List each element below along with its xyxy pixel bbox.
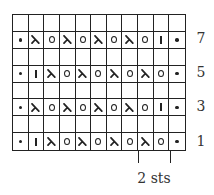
chart-cell bbox=[107, 32, 123, 49]
purl-dot-icon bbox=[19, 72, 23, 76]
yarn-over-icon bbox=[95, 138, 101, 145]
chart-cell bbox=[13, 133, 29, 150]
yarn-over-icon bbox=[95, 70, 101, 77]
ssk-decrease-icon bbox=[94, 35, 103, 44]
yarn-over-icon bbox=[127, 70, 133, 77]
chart-cell bbox=[169, 32, 185, 49]
chart-cell bbox=[60, 116, 76, 133]
yarn-over-icon bbox=[111, 36, 117, 43]
ssk-decrease-icon bbox=[110, 69, 119, 78]
chart-cell bbox=[107, 133, 123, 150]
row-number-1: 1 bbox=[193, 134, 209, 148]
row-number-5: 5 bbox=[193, 65, 209, 79]
row-number-3: 3 bbox=[193, 99, 209, 113]
chart-cell bbox=[154, 116, 170, 133]
ssk-decrease-icon bbox=[47, 137, 56, 146]
purl-dot-icon bbox=[175, 140, 179, 144]
chart-cell bbox=[138, 15, 154, 32]
chart-cell bbox=[76, 99, 92, 116]
chart-cell bbox=[122, 49, 138, 66]
chart-cell bbox=[107, 99, 123, 116]
chart-cell bbox=[13, 32, 29, 49]
chart-cell bbox=[138, 116, 154, 133]
ssk-decrease-icon bbox=[31, 35, 40, 44]
chart-cell bbox=[29, 66, 45, 83]
knit-stitch-icon bbox=[35, 138, 37, 146]
chart-cell bbox=[91, 15, 107, 32]
yarn-over-icon bbox=[49, 104, 55, 111]
yarn-over-icon bbox=[80, 104, 86, 111]
yarn-over-icon bbox=[142, 104, 148, 111]
purl-dot-icon bbox=[175, 38, 179, 42]
chart-cell bbox=[44, 99, 60, 116]
chart-cell bbox=[76, 116, 92, 133]
chart-cell bbox=[169, 116, 185, 133]
chart-cell bbox=[76, 66, 92, 83]
chart-cell bbox=[13, 66, 29, 83]
chart-cell bbox=[154, 49, 170, 66]
row-number-7: 7 bbox=[193, 31, 209, 45]
ssk-decrease-icon bbox=[125, 103, 134, 112]
ssk-decrease-icon bbox=[63, 35, 72, 44]
chart-cell bbox=[44, 49, 60, 66]
chart-cell bbox=[60, 66, 76, 83]
chart-cell bbox=[44, 32, 60, 49]
repeat-label: 2 sts bbox=[124, 171, 184, 185]
chart-cell bbox=[76, 15, 92, 32]
chart-cell bbox=[138, 66, 154, 83]
chart-cell bbox=[169, 133, 185, 150]
yarn-over-icon bbox=[80, 36, 86, 43]
chart-cell bbox=[122, 15, 138, 32]
chart-cell bbox=[122, 32, 138, 49]
ssk-decrease-icon bbox=[94, 103, 103, 112]
chart-cell bbox=[44, 133, 60, 150]
chart-cell bbox=[29, 49, 45, 66]
chart-cell bbox=[44, 66, 60, 83]
chart-cell bbox=[138, 133, 154, 150]
chart-cell bbox=[91, 32, 107, 49]
chart-cell bbox=[154, 66, 170, 83]
chart-cell bbox=[107, 15, 123, 32]
chart-cell bbox=[138, 83, 154, 100]
chart-cell bbox=[44, 116, 60, 133]
chart-cell bbox=[13, 83, 29, 100]
chart-cell bbox=[138, 99, 154, 116]
chart-cell bbox=[60, 15, 76, 32]
ssk-decrease-icon bbox=[78, 137, 87, 146]
chart-cell bbox=[29, 83, 45, 100]
chart-cell bbox=[122, 116, 138, 133]
yarn-over-icon bbox=[142, 36, 148, 43]
chart-cell bbox=[107, 66, 123, 83]
chart-cell bbox=[122, 66, 138, 83]
chart-cell bbox=[91, 83, 107, 100]
chart-cell bbox=[154, 83, 170, 100]
repeat-marker-right bbox=[170, 151, 171, 163]
ssk-decrease-icon bbox=[141, 137, 150, 146]
chart-cell bbox=[122, 99, 138, 116]
chart-cell bbox=[169, 66, 185, 83]
chart-cell bbox=[91, 66, 107, 83]
chart-cell bbox=[13, 49, 29, 66]
knit-stitch-icon bbox=[160, 103, 162, 111]
yarn-over-icon bbox=[64, 70, 70, 77]
chart-cell bbox=[91, 99, 107, 116]
chart-cell bbox=[169, 99, 185, 116]
chart-cell bbox=[138, 49, 154, 66]
chart-cell bbox=[154, 15, 170, 32]
chart-cell bbox=[29, 99, 45, 116]
chart-cell bbox=[107, 83, 123, 100]
purl-dot-icon bbox=[175, 106, 179, 110]
chart-cell bbox=[60, 32, 76, 49]
yarn-over-icon bbox=[158, 70, 164, 77]
chart-cell bbox=[107, 116, 123, 133]
yarn-over-icon bbox=[49, 36, 55, 43]
chart-cell bbox=[169, 15, 185, 32]
chart-cell bbox=[60, 99, 76, 116]
chart-cell bbox=[138, 32, 154, 49]
chart-cell bbox=[13, 15, 29, 32]
chart-cell bbox=[44, 83, 60, 100]
yarn-over-icon bbox=[64, 138, 70, 145]
chart-cell bbox=[76, 133, 92, 150]
chart-cell bbox=[154, 133, 170, 150]
ssk-decrease-icon bbox=[63, 103, 72, 112]
